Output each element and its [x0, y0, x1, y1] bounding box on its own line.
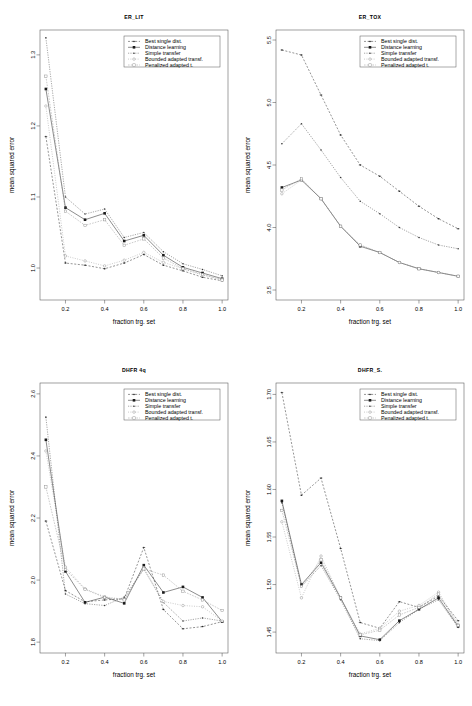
x-tick-label: 0.2	[298, 659, 306, 665]
y-tick-label: 1.8	[30, 638, 36, 646]
x-tick-label: 0.8	[179, 659, 187, 665]
chart-legend: Best single dist.Distance learningSimple…	[124, 389, 220, 421]
series-line	[45, 88, 224, 280]
chart-title: ER_LIT	[124, 14, 144, 20]
x-tick-label: 0.2	[62, 659, 70, 665]
y-tick-label: 5.0	[266, 99, 272, 107]
series-line	[45, 486, 224, 612]
chart-svg-2: DHFR 4q1.82.02.22.42.60.20.40.60.81.0fra…	[0, 353, 236, 706]
x-axis-label: fraction trg. set	[113, 671, 155, 679]
series-line	[45, 37, 223, 277]
series-line	[45, 75, 224, 281]
chart-title: DHFR 4q	[122, 367, 146, 373]
y-tick-label: 2.6	[30, 390, 36, 398]
x-tick-label: 0.4	[101, 659, 109, 665]
x-tick-label: 0.6	[140, 306, 148, 312]
chart-panel-er-lit: ER_LIT1.01.11.21.30.20.40.60.81.0fractio…	[0, 0, 236, 353]
chart-panel-er-tox: ER_TOX3.54.04.55.05.50.20.40.60.81.0frac…	[236, 0, 472, 353]
y-tick-label: 5.5	[266, 36, 272, 44]
x-tick-label: 0.8	[179, 306, 187, 312]
chart-panel-dhfr-4q: DHFR 4q1.82.02.22.42.60.20.40.60.81.0fra…	[0, 353, 236, 706]
chart-title: ER_TOX	[359, 14, 382, 20]
x-tick-label: 0.8	[415, 306, 423, 312]
series-line	[280, 392, 459, 629]
y-tick-label: 1.55	[266, 532, 272, 543]
y-tick-label: 2.2	[30, 514, 36, 522]
y-tick-label: 1.70	[266, 389, 272, 400]
series-line	[44, 136, 223, 282]
x-tick-label: 0.6	[140, 659, 148, 665]
y-axis: 1.451.501.551.601.651.70	[266, 389, 276, 638]
legend-label: Penalized adapted t.	[145, 62, 193, 68]
y-tick-label: 1.50	[266, 579, 272, 590]
y-axis: 3.54.04.55.05.5	[266, 36, 276, 294]
y-axis: 1.01.11.21.3	[30, 51, 40, 272]
series-line	[45, 438, 224, 622]
series-line	[45, 450, 224, 623]
x-tick-label: 1.0	[218, 306, 226, 312]
x-axis-label: fraction trg. set	[113, 318, 155, 326]
legend-label: Penalized adapted t.	[145, 415, 193, 421]
x-tick-label: 0.8	[415, 659, 423, 665]
series-line	[281, 179, 460, 278]
x-tick-label: 1.0	[454, 306, 462, 312]
x-axis: 0.20.40.60.81.0	[62, 300, 226, 312]
legend-label: Penalized adapted t.	[381, 62, 429, 68]
chart-panel-dhfr-s: DHFR_S.1.451.501.551.601.651.700.20.40.6…	[236, 353, 472, 706]
y-tick-label: 2.4	[30, 452, 36, 460]
chart-legend: Best single dist.Distance learningSimple…	[360, 389, 456, 421]
x-axis-label: fraction trg. set	[349, 318, 391, 326]
x-tick-label: 0.2	[62, 306, 70, 312]
y-tick-label: 1.60	[266, 484, 272, 495]
series-line	[280, 49, 459, 229]
y-tick-label: 1.2	[30, 122, 36, 130]
series-line	[45, 416, 223, 621]
y-tick-label: 1.3	[30, 51, 36, 59]
x-axis: 0.20.40.60.81.0	[298, 300, 462, 312]
x-tick-label: 1.0	[218, 659, 226, 665]
y-axis-label: mean squared error	[8, 136, 16, 193]
series-line	[281, 179, 460, 278]
x-axis-label: fraction trg. set	[349, 671, 391, 679]
series-line	[281, 500, 460, 641]
x-axis: 0.20.40.60.81.0	[298, 653, 462, 665]
plot-frame	[40, 383, 228, 653]
chart-legend: Best single dist.Distance learningSimple…	[360, 36, 456, 68]
y-axis-label: mean squared error	[8, 489, 16, 546]
y-tick-label: 1.45	[266, 627, 272, 638]
chart-svg-1: ER_TOX3.54.04.55.05.50.20.40.60.81.0frac…	[236, 0, 472, 353]
y-tick-label: 3.5	[266, 286, 272, 294]
x-tick-label: 0.4	[101, 306, 109, 312]
series-line	[281, 502, 459, 641]
figure-canvas: ER_LIT1.01.11.21.30.20.40.60.81.0fractio…	[0, 0, 472, 706]
y-tick-label: 4.0	[266, 224, 272, 232]
x-tick-label: 0.6	[376, 306, 384, 312]
series-line	[281, 509, 460, 636]
chart-legend: Best single dist.Distance learningSimple…	[124, 36, 220, 68]
y-tick-label: 1.0	[30, 264, 36, 272]
y-tick-label: 1.65	[266, 436, 272, 447]
y-tick-label: 4.5	[266, 161, 272, 169]
x-tick-label: 0.4	[337, 306, 345, 312]
chart-svg-3: DHFR_S.1.451.501.551.601.651.700.20.40.6…	[236, 353, 472, 706]
y-axis: 1.82.02.22.42.6	[30, 390, 40, 646]
x-tick-label: 0.6	[376, 659, 384, 665]
series-line	[44, 520, 223, 629]
x-axis: 0.20.40.60.81.0	[62, 653, 226, 665]
legend-label: Penalized adapted t.	[381, 415, 429, 421]
plot-frame	[276, 30, 464, 300]
y-tick-label: 2.0	[30, 576, 36, 584]
y-axis-label: mean squared error	[244, 136, 252, 193]
plot-frame	[276, 383, 464, 653]
chart-svg-0: ER_LIT1.01.11.21.30.20.40.60.81.0fractio…	[0, 0, 236, 353]
series-line	[45, 105, 224, 281]
chart-title: DHFR_S.	[358, 367, 383, 373]
plot-frame	[40, 30, 228, 300]
x-tick-label: 1.0	[454, 659, 462, 665]
x-tick-label: 0.2	[298, 306, 306, 312]
y-axis-label: mean squared error	[244, 489, 252, 546]
series-line	[281, 178, 460, 278]
x-tick-label: 0.4	[337, 659, 345, 665]
y-tick-label: 1.1	[30, 193, 36, 201]
